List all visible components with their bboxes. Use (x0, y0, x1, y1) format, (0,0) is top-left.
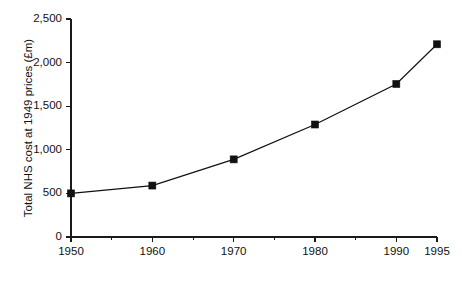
line-chart-canvas: 05001,0001,5002,0002,500 195019601970198… (0, 0, 462, 286)
x-tick-label: 1960 (140, 245, 166, 257)
y-axis-ticks (66, 19, 71, 237)
y-tick-label: 2,000 (33, 56, 62, 68)
data-point-marker (149, 182, 156, 189)
data-point-marker (393, 80, 400, 87)
data-point-marker (434, 41, 441, 48)
y-axis-title: Total NHS cost at 1949 prices (£m) (22, 39, 34, 217)
data-point-marker (312, 121, 319, 128)
y-axis-tick-labels: 05001,0001,5002,0002,500 (33, 12, 62, 242)
data-point-marker (68, 190, 75, 197)
chart-figure: 05001,0001,5002,0002,500 195019601970198… (0, 0, 462, 286)
data-series-line (71, 44, 437, 193)
data-point-marker (230, 156, 237, 163)
data-series-markers (68, 41, 441, 197)
x-axis-ticks (71, 237, 437, 242)
y-tick-label: 1,000 (33, 143, 62, 155)
x-tick-label: 1990 (384, 245, 410, 257)
y-tick-label: 500 (43, 186, 62, 198)
x-tick-label: 1995 (424, 245, 450, 257)
x-tick-label: 1950 (58, 245, 84, 257)
y-tick-label: 2,500 (33, 12, 62, 24)
x-tick-label: 1970 (221, 245, 247, 257)
y-tick-label: 1,500 (33, 99, 62, 111)
x-tick-label: 1980 (302, 245, 328, 257)
y-tick-label: 0 (56, 230, 62, 242)
x-axis-tick-labels: 195019601970198019901995 (58, 245, 450, 257)
